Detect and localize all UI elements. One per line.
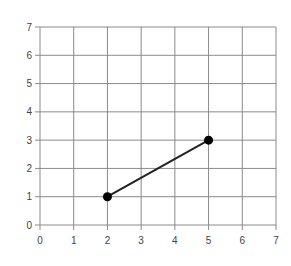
y-tick-label: 6	[26, 50, 32, 61]
y-tick-label: 7	[26, 22, 32, 33]
x-tick-label: 6	[240, 235, 246, 246]
y-axis-tick-labels: 01234567	[26, 22, 32, 231]
y-tick-label: 3	[26, 135, 32, 146]
y-tick-label: 5	[26, 78, 32, 89]
x-tick-label: 0	[37, 235, 43, 246]
y-tick-label: 2	[26, 163, 32, 174]
x-tick-label: 7	[273, 235, 279, 246]
x-tick-label: 5	[206, 235, 212, 246]
x-tick-label: 1	[71, 235, 77, 246]
x-tick-label: 2	[105, 235, 111, 246]
point-marker	[204, 136, 213, 145]
x-axis-tick-labels: 01234567	[37, 235, 279, 246]
y-tick-label: 4	[26, 106, 32, 117]
y-tick-label: 0	[26, 220, 32, 231]
grid-lines	[35, 27, 276, 230]
y-tick-label: 1	[26, 191, 32, 202]
x-tick-label: 3	[138, 235, 144, 246]
x-tick-label: 4	[172, 235, 178, 246]
point-marker	[103, 192, 112, 201]
coordinate-grid-chart: 01234567 01234567	[0, 0, 291, 266]
